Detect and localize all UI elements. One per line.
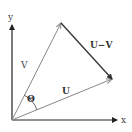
x-axis-label: x <box>121 115 126 125</box>
y-axis-label: y <box>7 12 14 22</box>
vector-v-label: V <box>20 60 28 70</box>
vector-diagram: y x V U U−V Θ <box>0 0 132 132</box>
vector-u-label: U <box>62 86 70 96</box>
angle-theta-label: Θ <box>27 94 35 104</box>
vector-u-minus-v <box>61 23 112 79</box>
vector-v <box>12 23 61 120</box>
vector-u-minus-v-label: U−V <box>90 40 113 50</box>
